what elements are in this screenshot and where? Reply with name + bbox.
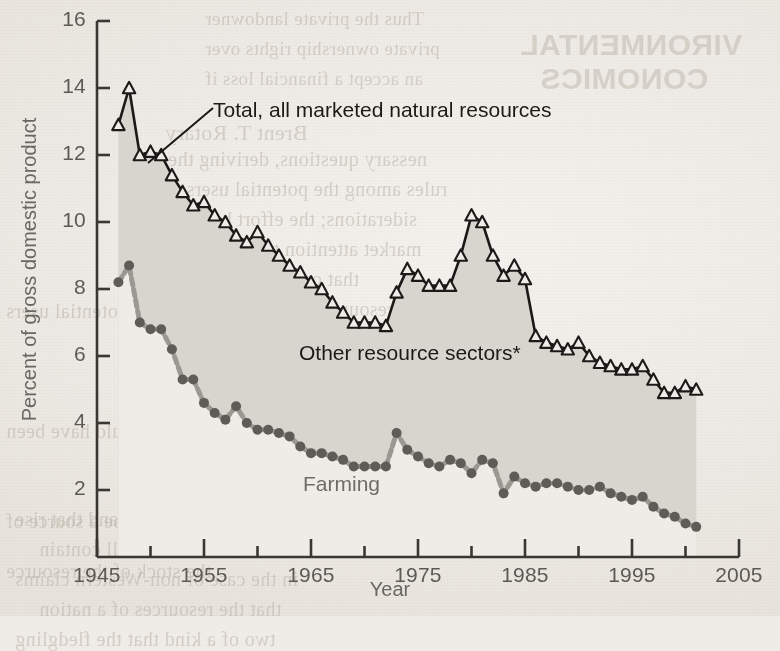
total-series-marker: [198, 196, 210, 207]
farming-series-marker: [210, 408, 220, 418]
farming-annotation-label: Farming: [303, 472, 380, 496]
y-axis-tick-label: 2: [24, 476, 86, 500]
farming-series-marker: [274, 428, 284, 438]
farming-series-marker: [563, 482, 573, 492]
other-resource-sectors-annotation-label: Other resource sectors*: [299, 341, 521, 365]
farming-series-marker: [467, 468, 477, 478]
farming-series-marker: [178, 374, 188, 384]
farming-series-marker: [541, 478, 551, 488]
farming-series-marker: [295, 441, 305, 451]
farming-series-marker: [574, 485, 584, 495]
farming-series-marker: [381, 462, 391, 472]
farming-series-marker: [584, 485, 594, 495]
farming-series-marker: [360, 462, 370, 472]
y-axis-tick-label: 16: [24, 7, 86, 31]
farming-series-marker: [616, 492, 626, 502]
y-axis-tick-label: 14: [24, 74, 86, 98]
farming-series-marker: [338, 455, 348, 465]
farming-series-marker: [146, 324, 156, 334]
total-series-marker: [123, 82, 135, 93]
total-series-marker: [572, 336, 584, 347]
showthrough-text-line: two of a kind that the fledgling: [15, 628, 276, 651]
farming-series-marker: [648, 502, 658, 512]
y-axis-title: Percent of gross domestic product: [18, 105, 41, 435]
farming-series-marker: [691, 522, 701, 532]
farming-series-marker: [456, 458, 466, 468]
farming-series-marker: [220, 415, 230, 425]
farming-series-marker: [627, 495, 637, 505]
farming-series-marker: [199, 398, 209, 408]
farming-series-marker: [156, 324, 166, 334]
farming-series-marker: [392, 428, 402, 438]
farming-series-marker: [317, 448, 327, 458]
farming-series-marker: [402, 445, 412, 455]
farming-series-marker: [253, 425, 263, 435]
farming-series-marker: [124, 261, 134, 271]
total-series-marker: [401, 263, 413, 274]
farming-series-marker: [370, 462, 380, 472]
farming-series-marker: [531, 482, 541, 492]
farming-series-marker: [285, 431, 295, 441]
farming-series-marker: [488, 458, 498, 468]
farming-series-marker: [520, 478, 530, 488]
farming-series-marker: [509, 472, 519, 482]
farming-series-marker: [638, 492, 648, 502]
total-series-marker: [144, 145, 156, 156]
farming-series-marker: [135, 318, 145, 328]
total-series-marker: [637, 360, 649, 371]
total-label-leader-line: [148, 108, 213, 163]
farming-series-marker: [434, 462, 444, 472]
total-series-annotation-label: Total, all marketed natural resources: [213, 98, 552, 122]
farming-series-marker: [681, 519, 691, 529]
farming-series-marker: [499, 488, 509, 498]
farming-series-marker: [424, 458, 434, 468]
farming-series-marker: [242, 418, 252, 428]
farming-series-marker: [113, 277, 123, 287]
farming-series-marker: [327, 452, 337, 462]
farming-series-marker: [306, 448, 316, 458]
farming-series-marker: [167, 344, 177, 354]
farming-series-marker: [552, 478, 562, 488]
farming-series-marker: [659, 508, 669, 518]
farming-series-marker: [349, 462, 359, 472]
total-series-marker: [679, 380, 691, 391]
farming-series-marker: [445, 455, 455, 465]
farming-series-marker: [595, 482, 605, 492]
farming-series-marker: [413, 452, 423, 462]
y-axis-ticks: [97, 21, 110, 490]
farming-series-marker: [263, 425, 273, 435]
x-axis-title: Year: [0, 578, 780, 601]
farming-series-marker: [670, 512, 680, 522]
farming-series-marker: [477, 455, 487, 465]
total-series-marker: [251, 226, 263, 237]
farming-series-marker: [231, 401, 241, 411]
total-series-marker: [508, 259, 520, 270]
farming-series-marker: [188, 374, 198, 384]
total-series-marker: [465, 209, 477, 220]
farming-series-marker: [606, 488, 616, 498]
